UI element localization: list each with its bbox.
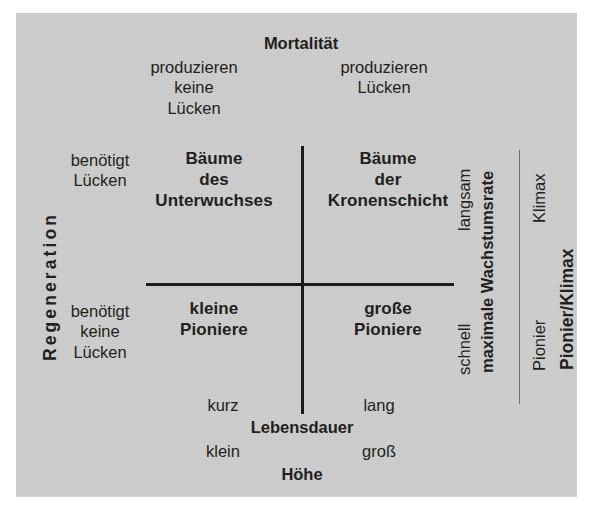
quadrant-bottom-right-label: große Pioniere: [308, 298, 468, 340]
top-axis-left-value: produzieren keine Lücken: [114, 57, 274, 118]
right-inner-axis-title: maximale Wachstumsrate: [479, 171, 496, 373]
bottom-secondary-axis-title: Höhe: [194, 464, 410, 484]
top-axis-title: Mortalität: [201, 33, 401, 53]
right-outer-lower-value: Pionier: [531, 320, 548, 371]
figure-canvas: Mortalität produzieren keine Lücken prod…: [0, 0, 593, 513]
vertical-axis-line: [301, 146, 304, 414]
right-axis-separator: [519, 150, 520, 404]
bottom-primary-right-value: lang: [324, 395, 434, 415]
quadrant-top-right-label: Bäume der Kronenschicht: [308, 148, 468, 211]
right-inner-upper-value: langsam: [456, 169, 473, 231]
bottom-secondary-left-value: klein: [168, 441, 278, 461]
bottom-primary-axis-title: Lebensdauer: [194, 417, 410, 437]
quadrant-bottom-left-label: kleine Pioniere: [134, 298, 294, 340]
quadrant-top-left-label: Bäume des Unterwuchses: [134, 148, 294, 211]
right-outer-axis-title: Pionier/Klimax: [559, 248, 577, 370]
bottom-secondary-right-value: groß: [324, 441, 434, 461]
top-axis-right-value: produzieren Lücken: [304, 57, 464, 98]
bottom-primary-left-value: kurz: [168, 395, 278, 415]
right-inner-lower-value: schnell: [456, 324, 473, 375]
right-outer-upper-value: Klimax: [531, 173, 548, 223]
horizontal-axis-line: [146, 283, 454, 286]
diagram-panel: Mortalität produzieren keine Lücken prod…: [16, 13, 577, 497]
